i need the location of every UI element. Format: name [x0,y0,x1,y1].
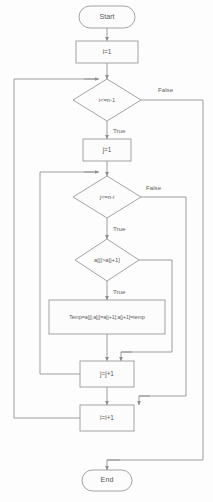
connector-end-arrow [107,460,120,470]
figure-caption [0,493,213,502]
node-inc-i-label: i=i+1 [100,414,114,421]
flowchart-canvas: Start i=1 i<=n-1 j=1 j<=n-i a[j]>a[j+1] … [0,0,213,502]
node-end-label: End [101,475,114,484]
node-swap-label: Temp=a[j];a[j]=a[j+1];a[j+1]=temp [69,314,145,320]
node-cond-outer-label: i<=n-1 [99,97,116,103]
node-inc-j-label: j=j+1 [99,370,114,378]
node-cond-compare-label: a[j]>a[j+1] [94,257,120,263]
node-init-i-label: i=1 [103,48,112,55]
node-cond-inner-label: j<=n-i [99,194,115,200]
connector-inc-i-arrow-top [139,396,150,405]
node-start-label: Start [99,12,114,21]
edge-label-outer-false: False [158,86,174,93]
connector-inc-j-arrow-right [121,352,132,361]
node-init-j-label: j=1 [102,146,112,154]
flowchart-svg: Start i=1 i<=n-1 j=1 j<=n-i a[j]>a[j+1] … [0,0,213,502]
edge-label-compare-true: True [113,288,126,295]
connector-inner-false-to-inc-i [139,197,186,396]
edge-label-inner-true: True [113,225,126,232]
edge-label-outer-true: True [113,127,126,134]
edge-label-inner-false: False [146,184,162,191]
